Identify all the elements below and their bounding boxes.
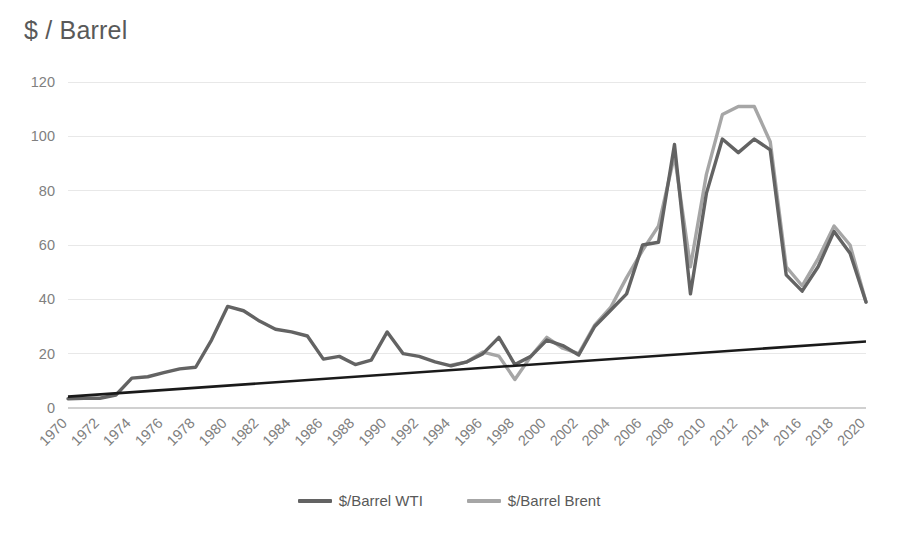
x-axis-tick-label: 1990 xyxy=(355,415,389,449)
chart-plot-area: 0204060801001201970197219741976197819801… xyxy=(0,0,898,535)
x-axis-tick-label: 2002 xyxy=(547,415,581,449)
legend-color-swatch xyxy=(467,499,501,503)
legend-item[interactable]: $/Barrel WTI xyxy=(298,492,423,509)
y-axis-tick-label: 120 xyxy=(31,74,55,90)
x-axis-tick-label: 1998 xyxy=(483,415,517,449)
x-axis-tick-label: 2004 xyxy=(579,415,613,449)
x-axis-tick-label: 1976 xyxy=(132,415,166,449)
x-axis-tick-label: 2000 xyxy=(515,415,549,449)
y-axis-tick-label: 80 xyxy=(39,183,55,199)
y-axis-tick-label: 20 xyxy=(39,346,55,362)
x-axis-tick-label: 1992 xyxy=(387,415,421,449)
x-axis-tick-label: 1986 xyxy=(291,415,325,449)
chart-container: $ / Barrel 02040608010012019701972197419… xyxy=(0,0,898,535)
chart-legend: $/Barrel WTI$/Barrel Brent xyxy=(0,492,898,509)
legend-color-swatch xyxy=(298,499,332,503)
x-axis-tick-label: 1996 xyxy=(451,415,485,449)
x-axis-tick-label: 2020 xyxy=(834,415,868,449)
x-axis-tick-label: 1982 xyxy=(228,415,262,449)
legend-label: $/Barrel WTI xyxy=(339,492,423,509)
y-axis-tick-label: 100 xyxy=(31,128,55,144)
x-axis-tick-label: 2008 xyxy=(642,415,676,449)
x-axis-tick-label: 1978 xyxy=(164,415,198,449)
x-axis-tick-label: 1970 xyxy=(36,415,70,449)
x-axis-tick-label: 2018 xyxy=(802,415,836,449)
x-axis-tick-label: 1984 xyxy=(259,415,293,449)
y-axis-tick-label: 0 xyxy=(47,400,55,416)
x-axis-tick-label: 1988 xyxy=(323,415,357,449)
x-axis-tick-label: 1974 xyxy=(100,415,134,449)
x-axis-tick-label: 2014 xyxy=(738,415,772,449)
y-axis-tick-label: 40 xyxy=(39,291,55,307)
x-axis-tick-label: 1994 xyxy=(419,415,453,449)
series-line--barrel-wti xyxy=(68,139,866,399)
x-axis-tick-label: 2012 xyxy=(706,415,740,449)
x-axis-tick-label: 1972 xyxy=(68,415,102,449)
x-axis-tick-label: 2016 xyxy=(770,415,804,449)
x-axis-tick-label: 2010 xyxy=(674,415,708,449)
y-axis-tick-label: 60 xyxy=(39,237,55,253)
legend-label: $/Barrel Brent xyxy=(508,492,601,509)
x-axis-tick-label: 2006 xyxy=(611,415,645,449)
x-axis-tick-label: 1980 xyxy=(196,415,230,449)
legend-item[interactable]: $/Barrel Brent xyxy=(467,492,601,509)
